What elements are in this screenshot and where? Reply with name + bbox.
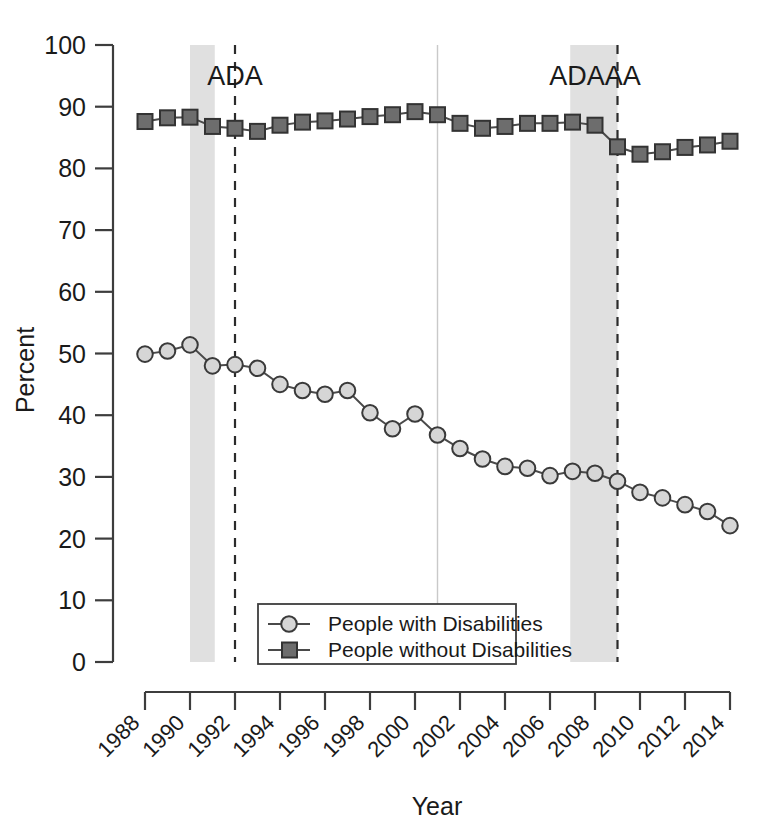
data-point-marker (317, 386, 333, 402)
y-tick-label: 100 (44, 31, 86, 59)
data-point-marker (385, 421, 401, 437)
data-point-marker (362, 405, 378, 421)
data-point-marker (227, 357, 243, 373)
y-axis-title: Percent (11, 327, 39, 413)
y-tick-label: 50 (58, 340, 86, 368)
data-point-marker (632, 485, 648, 501)
data-point-marker (452, 441, 468, 457)
legend: People with DisabilitiesPeople without D… (258, 604, 572, 664)
employment-rate-line-chart: 0102030405060708090100 Percent 198819901… (0, 0, 764, 832)
data-point-marker (250, 124, 265, 139)
data-point-marker (700, 504, 716, 520)
data-point-marker (273, 118, 288, 133)
recession-2008 (570, 45, 617, 662)
data-point-marker (497, 459, 513, 475)
data-point-marker (565, 115, 580, 130)
data-point-marker (250, 361, 266, 377)
data-point-marker (205, 119, 220, 134)
data-point-marker (542, 468, 558, 484)
data-point-marker (160, 343, 176, 359)
legend-marker-square (282, 643, 297, 658)
data-point-marker (475, 121, 490, 136)
x-tick-label: 1998 (317, 710, 369, 762)
data-point-marker (385, 107, 400, 122)
y-tick-label: 40 (58, 401, 86, 429)
x-tick-label: 2008 (542, 710, 594, 762)
chart-container: 0102030405060708090100 Percent 198819901… (0, 0, 764, 832)
data-point-marker (565, 464, 581, 480)
data-point-marker (205, 358, 221, 374)
data-point-marker (722, 518, 738, 534)
data-point-marker (340, 112, 355, 127)
data-point-marker (677, 497, 693, 513)
y-tick-label: 20 (58, 525, 86, 553)
data-point-marker (543, 116, 558, 131)
data-point-marker (138, 114, 153, 129)
x-axis: 1988199019921994199619982000200220042006… (92, 692, 730, 820)
x-tick-label: 1990 (137, 710, 189, 762)
data-point-marker (475, 451, 491, 467)
x-tick-label: 2002 (407, 710, 459, 762)
data-point-marker (700, 137, 715, 152)
x-tick-label: 2014 (677, 710, 729, 762)
y-tick-label: 30 (58, 463, 86, 491)
x-tick-label: 1992 (182, 710, 234, 762)
data-point-marker (723, 134, 738, 149)
legend-label: People with Disabilities (328, 612, 543, 635)
data-point-marker (340, 383, 356, 399)
y-tick-label: 60 (58, 278, 86, 306)
x-tick-group: 1988199019921994199619982000200220042006… (92, 692, 730, 762)
annotation-label-ada: ADA (207, 61, 263, 91)
data-point-marker (430, 427, 446, 443)
x-tick-label: 1996 (272, 710, 324, 762)
y-axis: 0102030405060708090100 Percent (11, 31, 113, 676)
data-point-marker (182, 337, 198, 353)
data-point-marker (633, 147, 648, 162)
data-point-marker (295, 115, 310, 130)
data-point-marker (655, 144, 670, 159)
x-axis-title: Year (412, 792, 463, 820)
data-point-marker (183, 110, 198, 125)
data-point-marker (407, 406, 423, 422)
data-point-marker (295, 383, 311, 399)
data-point-marker (453, 116, 468, 131)
x-tick-label: 1994 (227, 710, 279, 762)
data-point-marker (655, 490, 671, 506)
data-point-marker (137, 346, 153, 362)
data-point-marker (272, 377, 288, 393)
data-point-marker (610, 139, 625, 154)
data-point-marker (408, 104, 423, 119)
x-tick-label: 2010 (587, 710, 639, 762)
annotation-label-adaaa: ADAAA (549, 61, 641, 91)
data-point-marker (520, 116, 535, 131)
data-point-marker (498, 119, 513, 134)
data-point-marker (318, 113, 333, 128)
x-tick-label: 2012 (632, 710, 684, 762)
data-point-marker (160, 110, 175, 125)
event-line-group (235, 45, 618, 662)
y-tick-label: 90 (58, 93, 86, 121)
y-tick-label: 0 (72, 648, 86, 676)
data-point-marker (588, 118, 603, 133)
data-point-marker (363, 109, 378, 124)
data-point-marker (610, 473, 626, 489)
y-tick-label: 80 (58, 154, 86, 182)
data-point-marker (228, 121, 243, 136)
data-point-marker (678, 140, 693, 155)
x-tick-label: 2000 (362, 710, 414, 762)
x-tick-label: 2004 (452, 710, 504, 762)
legend-label: People without Disabilities (328, 638, 572, 661)
data-point-marker (430, 107, 445, 122)
y-tick-group: 0102030405060708090100 (44, 31, 113, 676)
legend-marker-circle (281, 616, 297, 632)
y-tick-label: 70 (58, 216, 86, 244)
data-point-marker (520, 460, 536, 476)
y-tick-label: 10 (58, 586, 86, 614)
annotation-label-group: ADAADAAA (207, 61, 641, 91)
recession-1990 (190, 45, 215, 662)
x-tick-label: 2006 (497, 710, 549, 762)
x-tick-label: 1988 (92, 710, 144, 762)
data-point-marker (587, 465, 603, 481)
